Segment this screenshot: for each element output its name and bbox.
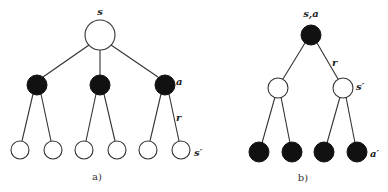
action-node [90,75,110,95]
edge [346,97,355,143]
action-node-leaf [314,142,334,162]
edge [22,94,33,141]
edge [262,97,275,143]
edge [327,97,340,143]
label-reward: r [332,57,338,68]
edge [86,94,96,141]
action-node [27,75,47,95]
action-node-leaf [282,142,302,162]
edge-root-to-state-1 [283,43,305,79]
state-node-leaf [11,141,29,159]
caption-b: b) [298,172,308,183]
diagram-a: s a r s′ a) [11,6,203,182]
edge-root-to-action-3 [111,45,158,77]
state-node-leaf [75,141,93,159]
state-node [333,78,353,98]
state-node-root [85,20,115,50]
action-node [155,75,175,95]
edge [281,97,290,143]
edge [104,94,115,141]
diagram-b: s,a r s′ a′ b) [249,8,379,183]
edge [41,94,51,141]
label-reward: r [176,112,182,123]
action-node-leaf [249,142,269,162]
action-node-leaf [347,142,367,162]
backup-diagrams: s a r s′ a) s,a r s′ a′ b) [0,0,388,192]
label-root-state-action: s,a [303,8,319,20]
label-action: a [176,76,182,87]
state-node-leaf [139,141,157,159]
state-node-leaf [172,141,190,159]
edge-root-to-action-1 [43,45,89,77]
label-root-state: s [97,6,103,17]
label-next-state: s′ [356,81,365,92]
state-node [268,78,288,98]
action-node-root [301,25,321,45]
label-next-state: s′ [194,147,203,158]
caption-a: a) [92,171,102,182]
state-node-leaf [108,141,126,159]
state-node-leaf [44,141,62,159]
label-next-action: a′ [370,148,379,159]
edge [150,94,161,141]
